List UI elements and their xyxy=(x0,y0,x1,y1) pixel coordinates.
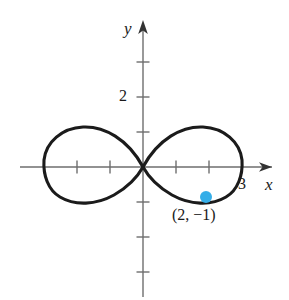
x-axis-label: x xyxy=(265,176,273,193)
x-tick-label-3: 3 xyxy=(238,176,246,192)
marked-point-label: (2, −1) xyxy=(172,207,216,223)
y-tick-label-2: 2 xyxy=(119,88,127,104)
lemniscate-plot xyxy=(0,0,289,300)
y-axis-label: y xyxy=(124,20,132,37)
lemniscate-curve-left-lobe xyxy=(44,127,143,203)
figure-container: y x 2 3 (2, −1) xyxy=(0,0,289,300)
lemniscate-curve-right-lobe xyxy=(143,127,242,203)
marked-point-dot xyxy=(200,191,212,203)
